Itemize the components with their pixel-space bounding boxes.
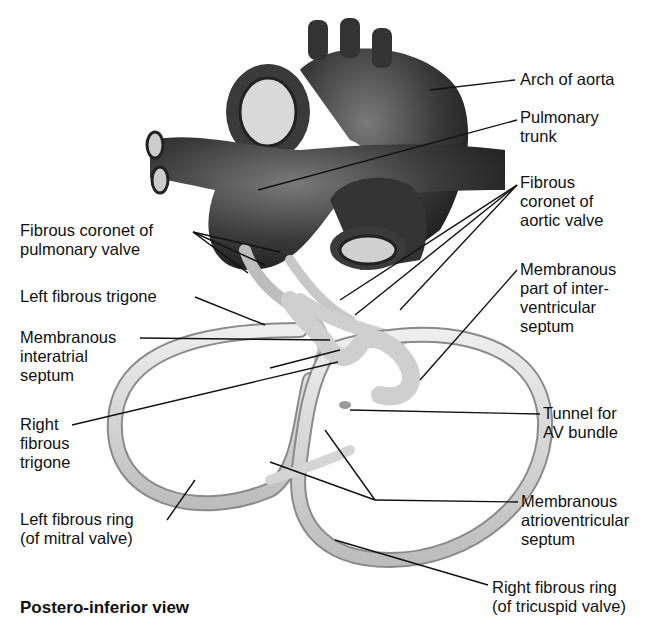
fibrous-skeleton-shape bbox=[115, 250, 545, 560]
label-membranous-av-septum: Membranous atrioventricular septum bbox=[521, 492, 629, 549]
label-membranous-interatrial-septum: Membranous interatrial septum bbox=[20, 328, 116, 385]
label-right-fibrous-trigone: Right fibrous trigone bbox=[20, 415, 70, 472]
label-fibrous-coronet-aortic-valve: Fibrous coronet of aortic valve bbox=[520, 173, 603, 230]
label-left-fibrous-trigone: Left fibrous trigone bbox=[20, 287, 157, 306]
label-pulmonary-trunk: Pulmonary trunk bbox=[520, 108, 599, 146]
label-membranous-interventricular-septum: Membranous part of inter- ventricular se… bbox=[520, 260, 616, 336]
label-right-fibrous-ring: Right fibrous ring (of tricuspid valve) bbox=[492, 578, 626, 616]
label-arch-of-aorta: Arch of aorta bbox=[520, 70, 614, 89]
view-title: Postero-inferior view bbox=[20, 598, 189, 618]
label-left-fibrous-ring: Left fibrous ring (of mitral valve) bbox=[20, 510, 134, 548]
label-tunnel-av-bundle: Tunnel for AV bundle bbox=[543, 404, 618, 442]
label-fibrous-coronet-pulmonary-valve: Fibrous coronet of pulmonary valve bbox=[20, 221, 153, 259]
